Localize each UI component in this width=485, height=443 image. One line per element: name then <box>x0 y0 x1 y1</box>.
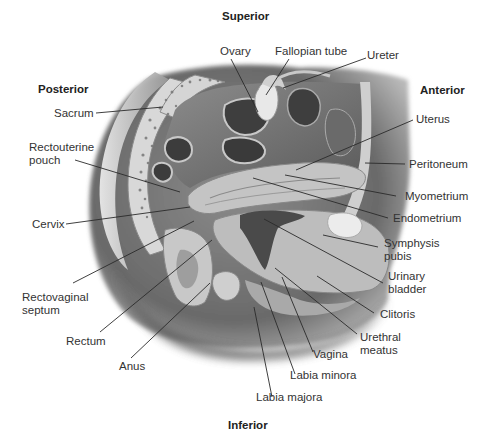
label-ureter: Ureter <box>367 49 399 62</box>
anatomy-diagram: Superior Posterior Anterior Inferior Ova… <box>0 0 485 443</box>
label-clitoris: Clitoris <box>380 308 415 321</box>
label-rectouterine-pouch: Rectouterine pouch <box>29 141 94 167</box>
label-rectum: Rectum <box>66 335 106 348</box>
label-peritoneum: Peritoneum <box>409 158 468 171</box>
label-vagina: Vagina <box>313 348 348 361</box>
label-sacrum: Sacrum <box>54 107 94 120</box>
label-urethral-meatus: Urethral meatus <box>360 331 401 357</box>
orientation-anterior: Anterior <box>420 84 465 96</box>
label-symphysis-pubis: Symphysis pubis <box>384 237 440 263</box>
label-ovary: Ovary <box>220 45 251 58</box>
label-labia-minora: Labia minora <box>290 369 356 382</box>
label-anus: Anus <box>119 360 145 373</box>
label-cervix: Cervix <box>32 218 65 231</box>
label-myometrium: Myometrium <box>405 190 468 203</box>
label-rectovaginal-septum: Rectovaginal septum <box>22 291 88 317</box>
label-fallopian-tube: Fallopian tube <box>275 45 347 58</box>
label-urinary-bladder: Urinary bladder <box>388 270 426 296</box>
orientation-superior: Superior <box>222 10 269 22</box>
label-uterus: Uterus <box>416 113 450 126</box>
orientation-posterior: Posterior <box>38 83 89 95</box>
orientation-inferior: Inferior <box>228 419 268 431</box>
label-endometrium: Endometrium <box>393 212 461 225</box>
label-labia-majora: Labia majora <box>256 391 322 404</box>
